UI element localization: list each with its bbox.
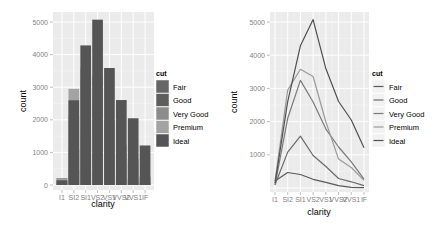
bar-ideal-vs2 bbox=[92, 20, 103, 185]
bar-ideal-i1 bbox=[57, 180, 68, 185]
y-tick-label: 1000 bbox=[249, 151, 265, 158]
y-tick-label: 5000 bbox=[249, 19, 265, 26]
legend-label: Premium bbox=[173, 123, 203, 132]
legend-label: Good bbox=[389, 96, 407, 105]
right-legend-title: cut bbox=[372, 70, 383, 77]
x-tick-label: I1 bbox=[272, 196, 278, 203]
legend-label: Very Good bbox=[173, 110, 208, 119]
bar-ideal-vvs2 bbox=[116, 100, 127, 185]
legend-label: Fair bbox=[173, 83, 186, 92]
bar-ideal-vvs1 bbox=[128, 118, 139, 185]
left-y-axis-title: count bbox=[18, 89, 28, 112]
left-y-axis: 010002000300040005000 bbox=[32, 19, 53, 189]
legend-label: Ideal bbox=[389, 137, 406, 146]
x-tick-label: SI2 bbox=[282, 196, 293, 203]
bar-ideal-si1 bbox=[80, 45, 91, 185]
legend-key-good bbox=[156, 94, 169, 107]
left-plot-background bbox=[53, 12, 154, 190]
y-tick-label: 0 bbox=[44, 182, 48, 189]
legend-key-fair bbox=[156, 80, 169, 93]
x-tick-label: VS2 bbox=[307, 196, 320, 203]
left-bar-chart: 010002000300040005000 I1SI2SI1VS2VS1VVS2… bbox=[18, 12, 208, 209]
y-tick-label: 2000 bbox=[249, 118, 265, 125]
y-tick-label: 2000 bbox=[32, 116, 48, 123]
legend-key-ideal bbox=[156, 134, 169, 147]
y-tick-label: 1000 bbox=[32, 149, 48, 156]
right-line-chart: 10002000300040005000 I1SI2SI1VS2VS1VVS2V… bbox=[229, 12, 424, 217]
chart-canvas: 010002000300040005000 I1SI2SI1VS2VS1VVS2… bbox=[0, 0, 444, 232]
y-tick-label: 3000 bbox=[249, 85, 265, 92]
legend-label: Premium bbox=[389, 123, 419, 132]
legend-key-premium bbox=[156, 121, 169, 134]
legend-label: Very Good bbox=[389, 110, 424, 119]
legend-key-very-good bbox=[156, 107, 169, 120]
legend-label: Good bbox=[173, 96, 191, 105]
legend-label: Ideal bbox=[173, 137, 190, 146]
left-x-axis-title: clarity bbox=[91, 199, 115, 209]
x-tick-label: SI1 bbox=[295, 196, 306, 203]
right-y-axis-title: count bbox=[229, 90, 239, 113]
x-tick-label: SI2 bbox=[69, 194, 80, 201]
bar-ideal-vs1 bbox=[104, 68, 115, 185]
left-legend-title: cut bbox=[156, 70, 167, 77]
y-tick-label: 4000 bbox=[249, 52, 265, 59]
legend-label: Fair bbox=[389, 83, 402, 92]
x-tick-label: VVS1 bbox=[342, 196, 360, 203]
right-x-axis-title: clarity bbox=[307, 207, 331, 217]
x-tick-label: IF bbox=[361, 196, 367, 203]
x-tick-label: VVS1 bbox=[124, 194, 142, 201]
y-tick-label: 5000 bbox=[32, 19, 48, 26]
right-y-axis: 10002000300040005000 bbox=[249, 19, 270, 159]
y-tick-label: 4000 bbox=[32, 51, 48, 58]
bar-ideal-si2 bbox=[68, 100, 79, 185]
right-x-axis: I1SI2SI1VS2VS1VVS2VVS1IF bbox=[272, 192, 367, 203]
right-legend: cut FairGoodVery GoodPremiumIdeal bbox=[372, 70, 424, 147]
x-tick-label: I1 bbox=[59, 194, 65, 201]
left-legend: cut FairGoodVery GoodPremiumIdeal bbox=[156, 70, 208, 147]
x-tick-label: IF bbox=[142, 194, 148, 201]
y-tick-label: 3000 bbox=[32, 84, 48, 91]
bar-ideal-if bbox=[140, 145, 151, 185]
x-tick-label: SI1 bbox=[80, 194, 91, 201]
